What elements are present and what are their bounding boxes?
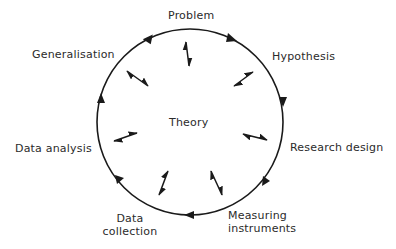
stage-label-data-analysis: Data analysis bbox=[15, 142, 92, 155]
stage-label-data-collection-line2: collection bbox=[100, 225, 160, 238]
stage-label-data-collection: Data collection bbox=[100, 212, 160, 238]
link-data-collection-theory bbox=[159, 171, 168, 195]
stage-label-measuring-line2: instruments bbox=[228, 222, 296, 235]
stage-label-measuring-instruments: Measuring instruments bbox=[228, 209, 296, 235]
stage-label-research-design: Research design bbox=[290, 141, 383, 154]
stage-label-data-collection-line1: Data bbox=[100, 212, 160, 225]
link-data-analysis-theory bbox=[114, 133, 137, 141]
cycle-arrow-icon bbox=[97, 93, 105, 103]
stage-label-hypothesis: Hypothesis bbox=[272, 50, 335, 63]
link-research-design-theory bbox=[243, 134, 267, 140]
link-generalisation-theory bbox=[127, 71, 148, 86]
stage-label-problem: Problem bbox=[168, 9, 214, 22]
link-problem-theory bbox=[186, 42, 189, 66]
cycle-arrow-icon bbox=[226, 33, 237, 42]
cycle-arrow-icon bbox=[262, 176, 270, 186]
link-measuring-theory bbox=[211, 171, 222, 195]
cycle-arrow-icon bbox=[184, 211, 194, 219]
center-label-theory: Theory bbox=[169, 116, 208, 129]
link-hypothesis-theory bbox=[234, 72, 253, 86]
stage-label-generalisation: Generalisation bbox=[32, 48, 115, 61]
stage-label-measuring-line1: Measuring bbox=[228, 209, 296, 222]
